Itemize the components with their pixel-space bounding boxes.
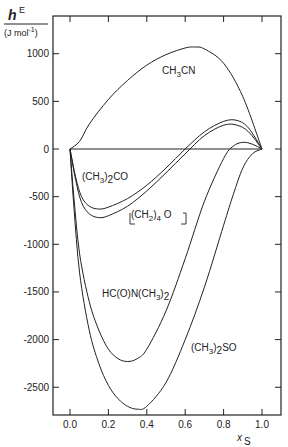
curve-ch3-2so	[70, 149, 262, 409]
label-acetone: (CH3)2CO	[82, 171, 128, 185]
label-dmf: HC(O)N(CH3)2	[102, 288, 170, 302]
x-tick-label: 0.6	[178, 419, 192, 430]
label-ch3cn: CH3CN	[162, 65, 195, 79]
curve-ch3cn	[70, 47, 262, 149]
x-tick-label: 0.2	[101, 419, 115, 430]
thf-ring-bracket-right	[181, 213, 186, 224]
curves	[70, 47, 262, 410]
x-tick-label: 0.0	[63, 419, 77, 430]
x-tick-label: 0.8	[217, 419, 231, 430]
x-tick-label: 1.0	[255, 419, 269, 430]
excess-enthalpy-chart: 10005000-500-1000-1500-2000-2500 0.00.20…	[0, 0, 288, 447]
x-axis-ticks: 0.00.20.40.60.81.0	[63, 16, 269, 430]
x-axis-label: xS	[236, 432, 251, 447]
y-tick-label: -2500	[23, 382, 49, 393]
y-axis-unit: (J mol-1)	[4, 26, 38, 38]
y-tick-label: 500	[32, 96, 49, 107]
y-tick-label: 1000	[27, 48, 50, 59]
label-dmso: (CH3)2SO	[191, 342, 237, 356]
y-tick-label: -500	[29, 191, 49, 202]
chart-figure: 10005000-500-1000-1500-2000-2500 0.00.20…	[0, 0, 288, 447]
y-axis-label-h: h	[8, 7, 17, 23]
y-tick-label: -1500	[23, 286, 49, 297]
y-tick-label: -2000	[23, 334, 49, 345]
x-tick-label: 0.4	[140, 419, 154, 430]
y-tick-label: -1000	[23, 239, 49, 250]
y-tick-label: 0	[43, 144, 49, 155]
y-axis-label-sup: E	[19, 5, 25, 15]
label-thf: (CH2)4 O	[131, 209, 172, 223]
